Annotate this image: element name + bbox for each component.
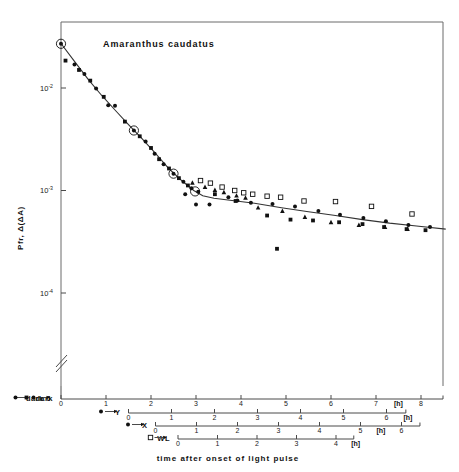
point-dark — [194, 203, 198, 207]
data-points — [56, 39, 432, 251]
time-tick-label: 3 — [277, 427, 281, 434]
time-tick-label: 5 — [342, 414, 346, 421]
point-dark — [172, 172, 176, 176]
axis-legend-dark-group: dark 0 — [14, 394, 52, 403]
y-axis-ticks: 10-210-310-4 — [40, 83, 66, 298]
point-dark — [271, 202, 275, 206]
point-WL — [333, 199, 337, 203]
time-tick-label: 8 — [419, 400, 423, 407]
point-WL — [302, 199, 306, 203]
point-Y — [203, 185, 208, 189]
point-WL — [251, 192, 255, 196]
point-Y — [303, 215, 308, 219]
point-X — [186, 184, 190, 188]
time-tick-label: 4 — [334, 440, 338, 447]
time-tick-label: 6 — [385, 414, 389, 421]
legend-marker-left-X — [126, 423, 130, 427]
point-dark — [384, 219, 388, 223]
point-Y — [213, 188, 218, 192]
point-dark — [113, 104, 117, 108]
time-tick-label: 1 — [170, 414, 174, 421]
time-tick-label: 1 — [104, 400, 108, 407]
axis-legend-Y: Y — [99, 408, 121, 417]
point-dark — [428, 225, 432, 229]
point-WL — [410, 212, 414, 216]
time-tick-label: 6 — [329, 400, 333, 407]
point-WL — [233, 188, 237, 192]
point-dark — [162, 162, 166, 166]
time-tick-label: 0 — [154, 427, 158, 434]
time-axes: 012345678[h]dark0123456[h]Y0123456[h]X01… — [14, 394, 444, 449]
point-X — [311, 219, 315, 223]
point-dark — [181, 180, 185, 184]
fit-curve — [61, 43, 446, 229]
point-X — [424, 228, 428, 232]
point-dark — [144, 140, 148, 144]
point-X — [123, 120, 127, 124]
plot-frame — [56, 22, 443, 399]
point-dark — [153, 152, 157, 156]
series-WL — [198, 178, 414, 216]
point-dark — [73, 62, 77, 66]
time-tick-label: 0 — [127, 414, 131, 421]
point-dark — [361, 216, 365, 220]
point-dark — [208, 203, 212, 207]
svg-text:Pfr, Δ(ΔA): Pfr, Δ(ΔA) — [16, 206, 25, 250]
legend-marker-left-WL — [148, 435, 152, 439]
point-X — [177, 176, 181, 180]
point-X — [213, 192, 217, 196]
point-dark — [249, 201, 253, 205]
axis-legend-WL: WL — [148, 434, 170, 443]
point-WL — [208, 181, 212, 185]
chart-title: Amaranthus caudatus — [103, 39, 215, 49]
unit-label-dark: [h] — [394, 400, 403, 408]
y-tick-label: 10-3 — [40, 185, 53, 195]
series-dark — [59, 42, 432, 229]
point-Y — [357, 223, 362, 227]
point-Y — [234, 193, 239, 197]
dark-legend-marker-left — [14, 396, 18, 400]
y-tick-label: 10-2 — [40, 83, 53, 93]
point-dark — [338, 213, 342, 217]
point-dark — [406, 223, 410, 227]
axis-legend-X: X — [126, 421, 148, 430]
point-dark — [226, 195, 230, 199]
point-WL — [242, 191, 246, 195]
point-dark — [94, 86, 98, 90]
point-dark — [82, 72, 86, 76]
point-dark — [132, 128, 136, 132]
chart-canvas: 10-210-310-4 012345678[h]dark0123456[h]Y… — [0, 0, 459, 472]
time-tick-label: 5 — [359, 427, 363, 434]
point-X — [289, 218, 293, 222]
time-tick-label: 0 — [59, 400, 63, 407]
point-Y — [329, 220, 334, 224]
point-dark — [183, 192, 187, 196]
y-axis-title: Pfr, Δ(ΔA) — [16, 206, 25, 250]
legend-marker-left-Y — [99, 410, 103, 414]
time-tick-label: 2 — [149, 400, 153, 407]
time-tick-label: 5 — [284, 400, 288, 407]
series-X — [64, 59, 428, 251]
time-tick-label: 7 — [374, 400, 378, 407]
y-tick-label: 10-4 — [40, 288, 53, 298]
decay-fit-line — [61, 43, 446, 229]
time-tick-label: 3 — [295, 440, 299, 447]
point-dark — [59, 42, 63, 46]
point-X — [265, 214, 269, 218]
unit-label-X: [h] — [377, 427, 386, 435]
time-tick-label: 0 — [176, 440, 180, 447]
time-tick-label: 3 — [194, 400, 198, 407]
time-tick-label: 2 — [213, 414, 217, 421]
point-WL — [278, 195, 282, 199]
time-tick-label: 4 — [318, 427, 322, 434]
point-Y — [190, 180, 195, 184]
point-X — [361, 222, 365, 226]
point-X — [102, 95, 106, 99]
time-axis-X: 0123456[h]X — [126, 421, 420, 436]
dark-legend-marker-right — [25, 396, 29, 400]
point-Y — [222, 190, 227, 194]
time-tick-label: 4 — [299, 414, 303, 421]
time-axis-WL: 01234[h]WL — [148, 434, 360, 449]
point-dark — [106, 103, 110, 107]
point-Y — [256, 205, 261, 209]
